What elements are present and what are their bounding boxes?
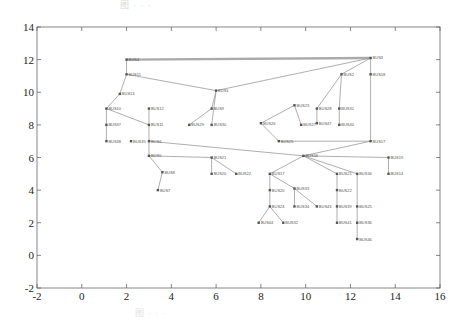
bus-marker-icon — [336, 205, 338, 207]
y-tick-label: -2 — [25, 282, 34, 294]
bus-marker-icon — [157, 189, 159, 191]
figure-caption-bottom: 图 · · · — [135, 306, 167, 319]
bus-label: BUS11 — [129, 72, 142, 77]
bus-label: BUS1 — [218, 88, 229, 93]
y-tick-label: 14 — [23, 21, 35, 33]
bus-marker-icon — [188, 124, 190, 126]
bus-node: BUS16 — [302, 153, 319, 158]
bus-label: BUS47 — [319, 121, 332, 126]
bus-marker-icon — [269, 205, 271, 207]
bus-label: BUS34 — [359, 171, 372, 176]
bus-marker-icon — [356, 238, 358, 240]
bus-node: BUS11 — [148, 122, 164, 127]
bus-marker-icon — [105, 107, 107, 109]
bus-label: BUS33 — [296, 186, 309, 191]
y-tick-label: 8 — [29, 119, 35, 131]
bus-node: BUS17 — [269, 171, 286, 176]
x-tick-label: 4 — [169, 290, 175, 302]
x-tick-label: 12 — [345, 290, 356, 302]
bus-node: BUS31 — [338, 106, 355, 111]
bus-node: BUS33 — [293, 186, 310, 191]
bus-label: BUS34 — [296, 204, 309, 209]
bus-node: BUS20 — [269, 188, 286, 193]
bus-node: BUS10 — [105, 106, 122, 111]
bus-label: BUS25 — [281, 139, 294, 144]
bus-label: BUS22 — [339, 188, 352, 193]
bus-label: BUS3 — [373, 55, 384, 60]
bus-marker-icon — [293, 104, 295, 106]
bus-node: BUS19 — [387, 155, 404, 160]
bus-marker-icon — [338, 124, 340, 126]
bus-label: BUS24 — [272, 204, 285, 209]
bus-marker-icon — [105, 140, 107, 142]
bus-node: BUS29 — [188, 122, 205, 127]
bus-label: BUS41 — [339, 220, 352, 225]
bus-label: BUS16 — [305, 153, 318, 158]
bus-marker-icon — [387, 156, 389, 158]
bus-node: BUS20 — [210, 171, 227, 176]
bus-node: BUS11 — [125, 72, 141, 77]
bus-label: BUS20 — [214, 171, 227, 176]
bus-marker-icon — [148, 155, 150, 157]
bus-label: BUS26 — [263, 121, 276, 126]
bus-label: BUS6 — [151, 139, 162, 144]
trunk-edge — [127, 58, 371, 60]
bus-node: BUS25 — [356, 204, 373, 209]
bus-marker-icon — [148, 140, 150, 142]
bus-label: BUS4 — [129, 57, 140, 62]
bus-label: BUS44 — [261, 220, 274, 225]
bus-node: BUS27 — [300, 122, 317, 127]
bus-label: BUS30 — [214, 122, 227, 127]
bus-marker-icon — [119, 93, 121, 95]
bus-label: BUS21 — [339, 171, 352, 176]
bus-node: BUS14 — [387, 171, 404, 176]
bus-node: BUS18 — [369, 72, 386, 77]
bus-marker-icon — [148, 124, 150, 126]
bus-marker-icon — [300, 124, 302, 126]
bus-label: BUS46 — [359, 237, 372, 242]
bus-label: BUS32 — [285, 220, 298, 225]
bus-label: BUS19 — [391, 155, 404, 160]
bus-node: BUS44 — [257, 220, 274, 225]
y-tick-label: 10 — [23, 86, 35, 98]
bus-label: BUS7 — [160, 188, 171, 193]
bus-node: BUS28 — [316, 106, 333, 111]
bus-marker-icon — [336, 189, 338, 191]
bus-marker-icon — [302, 155, 304, 157]
bus-label: BUS40 — [341, 122, 354, 127]
bus-label: BUS35 — [133, 139, 146, 144]
bus-marker-icon — [293, 187, 295, 189]
y-tick-label: 0 — [29, 249, 35, 261]
x-tick-label: 16 — [435, 290, 447, 302]
bus-marker-icon — [125, 58, 127, 60]
x-tick-label: 6 — [213, 290, 219, 302]
bus-label: BUS38 — [108, 139, 121, 144]
bus-label: BUS28 — [319, 106, 332, 111]
x-tick-label: 2 — [124, 290, 130, 302]
bus-marker-icon — [215, 89, 217, 91]
bus-node: BUS36 — [356, 220, 373, 225]
bus-marker-icon — [260, 122, 262, 124]
network-diagram: -20246810121416-202468101214 BUS4BUS3BUS… — [0, 0, 463, 322]
bus-label: BUS8 — [164, 170, 175, 175]
bus-node: BUS26 — [260, 121, 277, 126]
bus-node: BUS34 — [356, 171, 373, 176]
bus-label: BUS22 — [238, 171, 251, 176]
bus-label: BUS10 — [108, 106, 121, 111]
bus-marker-icon — [356, 222, 358, 224]
x-tick-label: 8 — [258, 290, 264, 302]
bus-node: BUS41 — [336, 220, 353, 225]
bus-node: BUS35 — [130, 139, 147, 144]
y-tick-label: 4 — [29, 184, 35, 196]
bus-label: BUS9 — [214, 106, 225, 111]
bus-label: BUS21 — [214, 155, 227, 160]
bus-label: BUS5 — [151, 153, 162, 158]
bus-marker-icon — [369, 140, 371, 142]
bus-node: BUS25 — [278, 139, 295, 144]
bus-label: BUS17 — [373, 139, 386, 144]
bus-marker-icon — [336, 222, 338, 224]
bus-marker-icon — [235, 173, 237, 175]
bus-label: BUS37 — [108, 122, 121, 127]
bus-marker-icon — [210, 124, 212, 126]
bus-marker-icon — [210, 156, 212, 158]
